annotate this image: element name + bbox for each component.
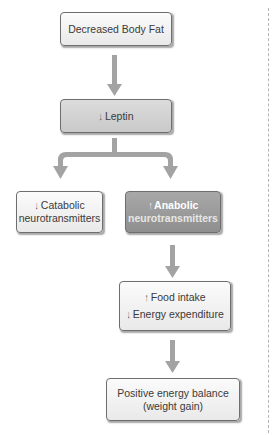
node-label: Leptin bbox=[105, 110, 134, 122]
up-arrow-icon: ↑ bbox=[145, 289, 148, 306]
node-decreased-body-fat: Decreased Body Fat bbox=[60, 12, 172, 46]
down-arrow-icon: ↓ bbox=[127, 306, 130, 323]
node-label-line1: Food intake bbox=[151, 291, 206, 303]
up-arrow-icon: ↑ bbox=[149, 199, 152, 212]
down-arrow-icon: ↓ bbox=[35, 199, 38, 212]
node-catabolic-neurotransmitters: ↓Catabolic neurotransmitters bbox=[16, 191, 103, 233]
node-positive-energy-balance: Positive energy balance (weight gain) bbox=[106, 378, 240, 421]
node-label-line1: Positive energy balance bbox=[117, 387, 229, 400]
node-label-line2: (weight gain) bbox=[143, 400, 203, 413]
node-leptin: ↓Leptin bbox=[60, 99, 172, 133]
node-label-line2: neurotransmitters bbox=[128, 212, 218, 225]
node-label-line2: Energy expenditure bbox=[133, 308, 224, 320]
down-arrow-icon: ↓ bbox=[100, 110, 103, 123]
node-anabolic-neurotransmitters: ↑Anabolic neurotransmitters bbox=[125, 191, 221, 233]
node-label-line1: Catabolic bbox=[41, 199, 85, 211]
node-label: Decreased Body Fat bbox=[68, 23, 164, 36]
node-food-intake-energy-expenditure: ↑Food intake ↓Energy expenditure bbox=[119, 281, 231, 331]
node-label-line1: Anabolic bbox=[154, 199, 198, 211]
node-label-line2: neurotransmitters bbox=[19, 212, 101, 225]
